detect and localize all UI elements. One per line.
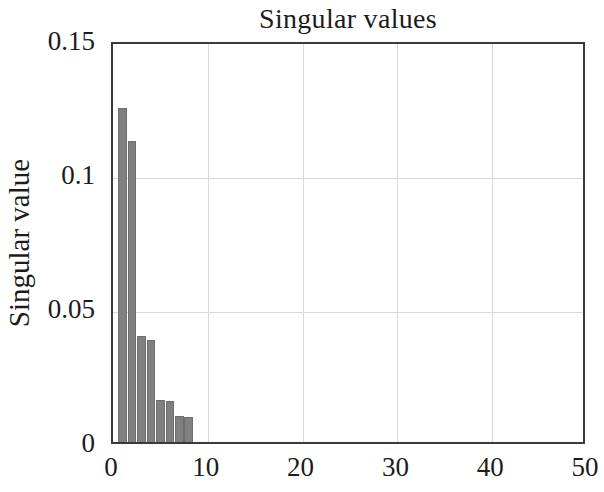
x-tick-label: 10 bbox=[192, 452, 219, 482]
x-tick-label: 50 bbox=[572, 452, 599, 482]
singular-values-figure: Singular values 00.050.10.15 01020304050… bbox=[0, 0, 604, 492]
x-axis-tick-labels: 01020304050 bbox=[0, 0, 604, 492]
x-tick-label: 30 bbox=[382, 452, 409, 482]
x-tick-label: 40 bbox=[477, 452, 504, 482]
y-axis-label: Singular value bbox=[0, 42, 38, 444]
x-tick-label: 20 bbox=[287, 452, 314, 482]
x-tick-label: 0 bbox=[104, 452, 118, 482]
